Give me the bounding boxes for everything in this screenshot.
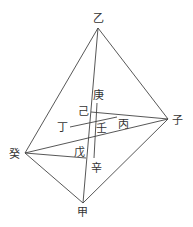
edges-group — [25, 28, 168, 203]
point-label-wu: 戊 — [74, 146, 85, 159]
geometry-diagram: 乙子癸甲庚己丁壬丙戊辛 — [0, 0, 193, 227]
point-label-gui: 癸 — [9, 147, 20, 161]
point-label-ding: 丁 — [57, 121, 68, 134]
point-label-jia: 甲 — [77, 206, 88, 219]
edge-yi-zi — [98, 28, 168, 119]
point-label-ren: 壬 — [96, 122, 107, 135]
point-label-bing: 丙 — [118, 118, 129, 131]
point-label-ji: 己 — [78, 105, 89, 118]
point-label-yi: 乙 — [93, 12, 104, 25]
point-label-geng: 庚 — [93, 88, 104, 102]
point-label-xin: 辛 — [91, 161, 102, 175]
edge-ji-zi — [91, 112, 168, 119]
edge-ding-bing — [70, 117, 117, 127]
point-label-zi: 子 — [172, 114, 183, 127]
edge-yi-gui — [25, 28, 98, 153]
edge-gui-jia — [25, 153, 83, 203]
